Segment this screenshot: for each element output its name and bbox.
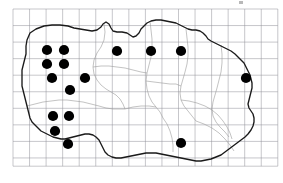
map-svg [0,0,283,183]
record-dot [80,73,90,83]
record-dot [42,59,52,69]
record-dot [59,59,69,69]
record-dot [176,46,186,56]
record-dot [65,85,75,95]
corner-tick-mark [239,1,243,4]
record-dot [50,126,60,136]
record-dot [42,45,52,55]
record-dot [112,46,122,56]
record-dot [47,73,57,83]
record-dot [146,46,156,56]
record-dot [241,73,251,83]
record-dot [59,45,69,55]
record-dot [48,111,58,121]
record-dot [176,138,186,148]
record-dot [64,111,74,121]
record-dot [63,139,73,149]
distribution-map-figure [0,0,283,183]
